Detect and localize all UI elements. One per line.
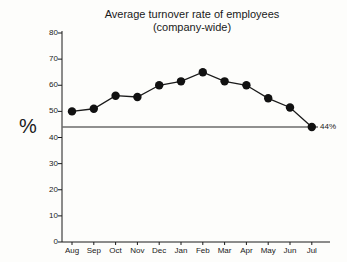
- data-series-markers: [68, 68, 316, 131]
- data-point: [177, 77, 185, 85]
- plot-area: [0, 0, 347, 262]
- data-point: [90, 105, 98, 113]
- data-point: [155, 81, 163, 89]
- data-point: [242, 81, 250, 89]
- data-point: [111, 92, 119, 100]
- y-axis-ticks: [58, 33, 62, 242]
- data-point: [199, 68, 207, 76]
- data-point: [133, 93, 141, 101]
- data-point: [220, 77, 228, 85]
- data-series-line: [72, 72, 312, 127]
- axes: [62, 31, 330, 242]
- data-point: [308, 123, 316, 131]
- data-point: [264, 94, 272, 102]
- data-point: [68, 107, 76, 115]
- chart-container: Average turnover rate of employees(compa…: [0, 0, 347, 262]
- data-point: [286, 103, 294, 111]
